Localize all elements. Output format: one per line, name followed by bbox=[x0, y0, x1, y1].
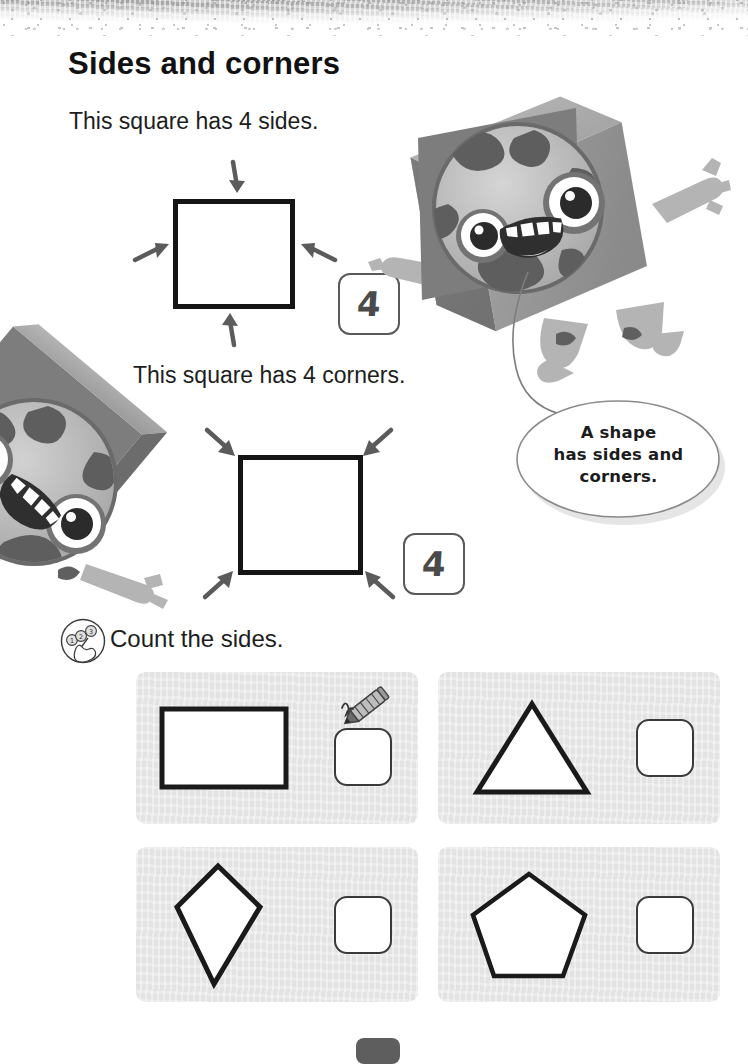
exercise-panel-triangle bbox=[438, 672, 720, 824]
arrow-top-side bbox=[222, 160, 252, 196]
square-sides-diagram bbox=[173, 199, 295, 309]
answer-badge-corners: 4 bbox=[403, 533, 465, 595]
arrow-right-side bbox=[297, 238, 337, 266]
arrow-corner-bottom-left bbox=[203, 565, 241, 599]
exercise-panel-rectangle bbox=[136, 672, 418, 824]
speech-bubble-line-2: has sides and bbox=[516, 444, 721, 466]
svg-text:2: 2 bbox=[79, 633, 83, 641]
arrow-corner-top-left bbox=[205, 428, 243, 462]
shape-kite bbox=[172, 861, 268, 989]
pencil-icon bbox=[332, 684, 396, 734]
shape-pentagon bbox=[468, 869, 590, 981]
answer-input-pentagon[interactable] bbox=[636, 896, 694, 954]
answer-input-rectangle[interactable] bbox=[334, 728, 392, 786]
answer-input-kite[interactable] bbox=[334, 896, 392, 954]
speech-bubble-line-3: corners. bbox=[516, 466, 721, 488]
page-number-tab bbox=[356, 1038, 400, 1064]
square-corners-diagram bbox=[238, 455, 363, 575]
exercise-panel-kite bbox=[136, 847, 418, 1002]
answer-badge-corners-value: 4 bbox=[421, 547, 447, 581]
svg-text:3: 3 bbox=[89, 628, 93, 636]
exercise-panel-pentagon bbox=[438, 847, 720, 1002]
count-fingers-icon: 1 2 3 bbox=[60, 618, 106, 664]
top-decorative-band bbox=[0, 0, 748, 40]
shape-triangle bbox=[472, 699, 592, 797]
answer-input-triangle[interactable] bbox=[636, 719, 694, 777]
shape-rectangle bbox=[158, 705, 290, 791]
page-title: Sides and corners bbox=[68, 46, 340, 82]
arrow-left-side bbox=[133, 238, 173, 266]
arrow-bottom-side bbox=[216, 311, 246, 347]
speech-bubble: A shape has sides and corners. bbox=[516, 396, 726, 524]
speech-bubble-text: A shape has sides and corners. bbox=[516, 422, 721, 488]
statement-sides: This square has 4 sides. bbox=[69, 108, 318, 135]
task-instruction: Count the sides. bbox=[110, 625, 283, 653]
svg-text:1: 1 bbox=[70, 637, 74, 645]
arrow-corner-bottom-right bbox=[357, 565, 395, 599]
arrow-corner-top-right bbox=[355, 428, 393, 462]
cube-monster-left bbox=[0, 332, 178, 624]
speech-bubble-line-1: A shape bbox=[516, 422, 721, 444]
